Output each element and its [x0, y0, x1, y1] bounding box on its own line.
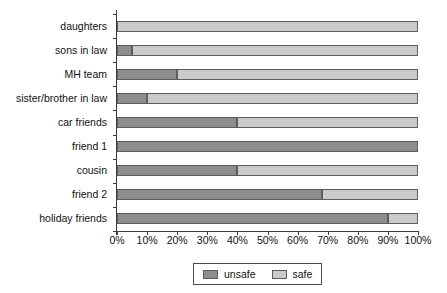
bar-segment-safe	[237, 117, 418, 128]
x-axis-tick-label: 20%	[167, 234, 188, 246]
y-axis-label-car-friends: car friends	[0, 117, 107, 128]
y-axis-category-labels: daughterssons in lawMH teamsister/brothe…	[0, 14, 112, 231]
bar-segment-safe	[177, 69, 418, 80]
x-axis-tick-label: 30%	[197, 234, 218, 246]
x-axis-tick-label: 0%	[109, 234, 124, 246]
y-axis-tick	[113, 183, 117, 184]
x-axis-tick-label: 90%	[377, 234, 398, 246]
bar-segment-safe	[117, 21, 418, 32]
bar-row	[117, 117, 418, 128]
bar-segment-unsafe	[117, 141, 418, 152]
bar-segment-safe	[388, 213, 418, 224]
bar-segment-safe	[132, 45, 418, 56]
bar-segment-unsafe	[117, 117, 237, 128]
legend-swatch-safe	[272, 270, 287, 279]
stacked-bar-chart: daughterssons in lawMH teamsister/brothe…	[0, 0, 447, 293]
legend-item-safe[interactable]: safe	[272, 269, 313, 280]
x-axis-tick-label: 100%	[405, 234, 432, 246]
legend-label: unsafe	[224, 269, 256, 280]
bar-row	[117, 45, 418, 56]
bar-row	[117, 213, 418, 224]
x-axis-tick-label: 50%	[257, 234, 278, 246]
y-axis-tick	[113, 110, 117, 111]
y-axis-label-friend-2: friend 2	[0, 189, 107, 200]
bar-segment-unsafe	[117, 165, 237, 176]
x-axis-tick-label: 10%	[137, 234, 158, 246]
y-axis-tick	[113, 159, 117, 160]
y-axis-label-cousin: cousin	[0, 165, 107, 176]
bar-row	[117, 165, 418, 176]
bar-row	[117, 69, 418, 80]
bar-segment-unsafe	[117, 45, 132, 56]
y-axis-label-sister-brother-in-law: sister/brother in law	[0, 93, 107, 104]
y-axis-label-holiday-friends: holiday friends	[0, 213, 107, 224]
legend-item-unsafe[interactable]: unsafe	[203, 269, 256, 280]
y-axis-tick	[113, 135, 117, 136]
x-axis-tick-label: 80%	[347, 234, 368, 246]
x-axis-tick-label: 60%	[287, 234, 308, 246]
y-axis-label-sons-in-law: sons in law	[0, 45, 107, 56]
bar-segment-safe	[147, 93, 418, 104]
bar-segment-unsafe	[117, 93, 147, 104]
bar-row	[117, 189, 418, 200]
bar-row	[117, 93, 418, 104]
y-axis-label-mh-team: MH team	[0, 69, 107, 80]
y-axis-label-friend-1: friend 1	[0, 141, 107, 152]
bar-segment-unsafe	[117, 69, 177, 80]
y-axis-tick	[113, 62, 117, 63]
bar-segment-unsafe	[117, 189, 322, 200]
bar-segment-safe	[322, 189, 418, 200]
y-axis-tick	[113, 14, 117, 15]
y-axis-tick	[113, 38, 117, 39]
bar-row	[117, 21, 418, 32]
chart-legend: unsafesafe	[193, 263, 322, 285]
x-axis-tick-label: 40%	[227, 234, 248, 246]
bar-segment-safe	[237, 165, 418, 176]
y-axis-label-daughters: daughters	[0, 21, 107, 32]
x-axis-tick-label: 70%	[317, 234, 338, 246]
plot-area	[117, 14, 418, 231]
y-axis-tick	[113, 86, 117, 87]
bar-row	[117, 141, 418, 152]
x-axis-tick-labels: 0%10%20%30%40%50%60%70%80%90%100%	[117, 234, 418, 248]
legend-label: safe	[293, 269, 313, 280]
bar-segment-unsafe	[117, 213, 388, 224]
y-axis-tick	[113, 207, 117, 208]
legend-swatch-unsafe	[203, 270, 218, 279]
